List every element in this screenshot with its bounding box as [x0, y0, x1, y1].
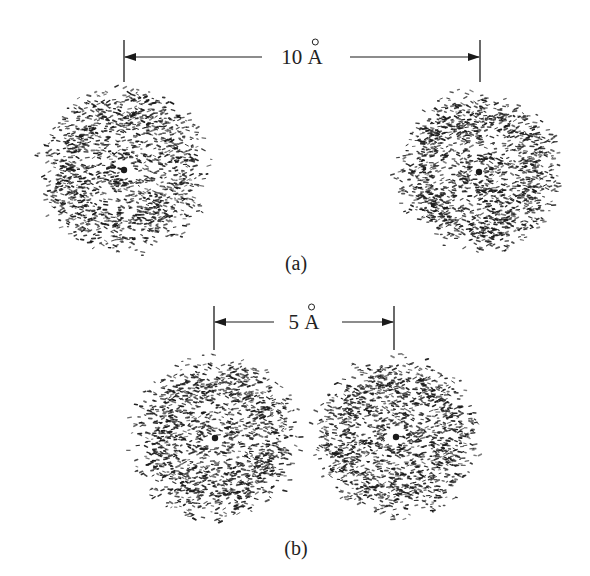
- distance-value: 10: [281, 45, 302, 69]
- electron-cloud-right-atom-b: [310, 354, 482, 520]
- distance-label-b: 5 A: [285, 312, 324, 333]
- nucleus-icon: [212, 435, 218, 441]
- nucleus-icon: [121, 167, 127, 173]
- electron-cloud-left-atom-b: [127, 354, 303, 523]
- angstrom-unit: A: [308, 47, 323, 68]
- panel-label-a: (a): [285, 253, 307, 273]
- angstrom-unit: A: [304, 312, 319, 333]
- distance-value: 5: [289, 310, 300, 334]
- electron-cloud-figure: [0, 0, 590, 576]
- panel-a-atoms-10-angstrom: [35, 40, 561, 255]
- panel-label-b: (b): [284, 538, 307, 558]
- panel-b-atoms-5-angstrom: [127, 306, 482, 523]
- distance-label-a: 10 A: [277, 47, 326, 68]
- nucleus-icon: [393, 434, 399, 440]
- electron-cloud-right-atom-a: [391, 89, 561, 252]
- electron-cloud-left-atom-a: [35, 85, 212, 255]
- nucleus-icon: [476, 169, 482, 175]
